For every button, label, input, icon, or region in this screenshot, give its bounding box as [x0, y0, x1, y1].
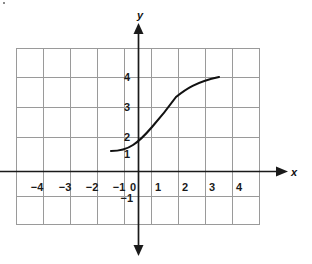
graph-figure: −4 −3 −2 −1 1 2 3 4 0 4 3 2 1 −1 x y [0, 0, 312, 264]
x-tick-label-1: 1 [155, 181, 161, 193]
y-tick-label-1: 1 [124, 148, 130, 160]
y-axis-arrow-down-icon [134, 245, 144, 256]
x-axis-arrow-icon [276, 167, 288, 177]
x-axis-label: x [290, 166, 298, 178]
y-axis-arrow-up-icon [134, 23, 144, 34]
y-tick-label--1: −1 [120, 192, 133, 204]
y-axis-label: y [136, 9, 144, 21]
x-tick-label--3: −3 [59, 181, 72, 193]
y-tick-label-3: 3 [124, 101, 130, 113]
y-tick-label-2: 2 [124, 131, 130, 143]
x-tick-label-2: 2 [182, 181, 188, 193]
x-tick-label-4: 4 [236, 181, 243, 193]
y-tick-label-4: 4 [124, 71, 131, 83]
x-tick-label--4: −4 [31, 181, 44, 193]
x-tick-label-3: 3 [209, 181, 215, 193]
x-tick-label--2: −2 [86, 181, 99, 193]
